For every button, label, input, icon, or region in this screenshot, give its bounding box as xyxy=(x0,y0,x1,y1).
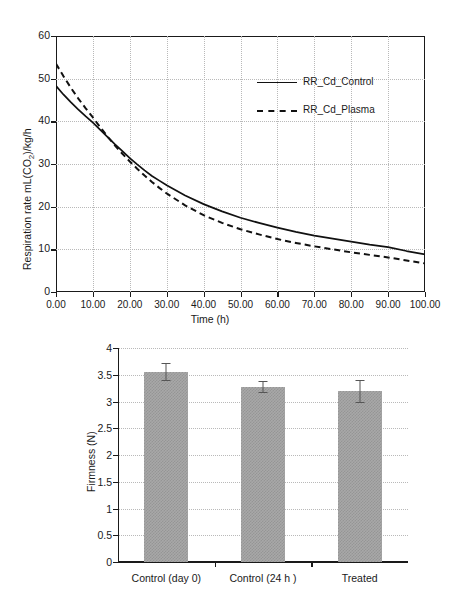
error-bar-cap-bottom xyxy=(162,380,171,381)
error-bar-cap-top xyxy=(162,363,171,364)
category-label-1: Control (24 h ) xyxy=(229,572,296,584)
y-axis-tick-label: 60 xyxy=(14,30,50,41)
category-label-2: Treated xyxy=(342,572,378,584)
x-axis-tick-label: 10.00 xyxy=(80,300,105,310)
y-axis-tick xyxy=(113,428,118,429)
y-title-post: )/kg/h xyxy=(21,128,33,154)
x-axis-tick xyxy=(241,292,242,297)
category-label-0: Control (day 0) xyxy=(132,572,201,584)
x-axis-tick-label: 70.00 xyxy=(302,300,327,310)
x-axis-tick-label: 50.00 xyxy=(228,300,253,310)
x-axis-tick xyxy=(204,292,205,297)
x-axis-tick-label: 30.00 xyxy=(154,300,179,310)
error-bar-cap-top xyxy=(355,380,364,381)
line-chart-x-axis-title: Time (h) xyxy=(191,314,230,325)
x-axis-tick-label: 0.00 xyxy=(46,300,65,310)
y-axis-tick-label: 1.5 xyxy=(72,476,112,488)
y-axis-tick-label: 30 xyxy=(14,158,50,169)
error-bar-0 xyxy=(144,363,188,381)
y-axis-tick xyxy=(113,402,118,403)
y-axis-tick-label: 0.5 xyxy=(72,529,112,541)
bar-chart-plot-area: 00.511.522.533.54 xyxy=(118,348,408,562)
y-axis-tick-label: 3 xyxy=(72,396,112,408)
y-axis-tick xyxy=(113,535,118,536)
legend-swatch-dashed-line-icon xyxy=(257,110,297,112)
y-axis-tick-label: 0 xyxy=(14,286,50,297)
x-axis-tick-label: 20.00 xyxy=(117,300,142,310)
y-axis-tick xyxy=(113,455,118,456)
legend-swatch-solid-line-icon xyxy=(257,82,297,83)
scientific-figure: Respiration rate mL(CO2)/kg/h Time (h) 0… xyxy=(0,0,454,600)
y-axis-tick-label: 2.5 xyxy=(72,422,112,434)
x-axis-tick xyxy=(277,292,278,297)
x-axis-tick xyxy=(56,292,57,297)
error-bar-stem xyxy=(166,363,167,381)
line-chart-data-area xyxy=(56,36,425,292)
y-axis-tick-label: 0 xyxy=(72,556,112,568)
x-axis-tick xyxy=(425,292,426,297)
x-axis-tick xyxy=(215,562,216,567)
bar-0 xyxy=(144,372,188,562)
y-axis-tick xyxy=(113,375,118,376)
x-axis-tick-label: 80.00 xyxy=(339,300,364,310)
y-axis-tick-label: 4 xyxy=(72,342,112,354)
y-axis-tick xyxy=(113,562,118,563)
y-axis-tick xyxy=(113,482,118,483)
gridline-horizontal xyxy=(119,348,408,349)
y-axis-tick-label: 10 xyxy=(14,243,50,254)
error-bar-cap-bottom xyxy=(355,402,364,403)
bar-2 xyxy=(338,391,382,562)
line-chart-legend: RR_Cd_Control RR_Cd_Plasma xyxy=(257,76,407,122)
legend-label-plasma: RR_Cd_Plasma xyxy=(303,104,375,115)
y-axis-tick xyxy=(113,509,118,510)
x-axis-tick xyxy=(314,292,315,297)
x-axis-tick xyxy=(311,562,312,567)
y-axis-tick-label: 20 xyxy=(14,201,50,212)
y-axis-tick-label: 50 xyxy=(14,73,50,84)
legend-label-control: RR_Cd_Control xyxy=(303,76,374,87)
y-axis-tick-label: 40 xyxy=(14,115,50,126)
x-axis-tick-label: 60.00 xyxy=(265,300,290,310)
y-axis-tick-label: 1 xyxy=(72,503,112,515)
x-axis-tick xyxy=(351,292,352,297)
bar-1 xyxy=(241,387,285,562)
y-axis-tick xyxy=(113,348,118,349)
firmness-bar-chart: Firmness (N) 00.511.522.533.54 xyxy=(0,332,454,600)
y-axis-tick-label: 2 xyxy=(72,449,112,461)
error-bar-cap-top xyxy=(259,381,268,382)
x-axis-tick-label: 90.00 xyxy=(376,300,401,310)
error-bar-2 xyxy=(338,380,382,402)
error-bar-stem xyxy=(359,380,360,402)
x-axis-tick xyxy=(167,292,168,297)
x-axis-tick xyxy=(93,292,94,297)
respiration-rate-line-chart: Respiration rate mL(CO2)/kg/h Time (h) 0… xyxy=(0,0,454,332)
error-bar-cap-bottom xyxy=(259,392,268,393)
x-axis-tick-label: 40.00 xyxy=(191,300,216,310)
y-axis-tick-label: 3.5 xyxy=(72,369,112,381)
x-axis-tick-label: 100.00 xyxy=(410,300,441,310)
x-axis-tick xyxy=(130,292,131,297)
error-bar-1 xyxy=(241,381,285,393)
x-axis-tick xyxy=(388,292,389,297)
